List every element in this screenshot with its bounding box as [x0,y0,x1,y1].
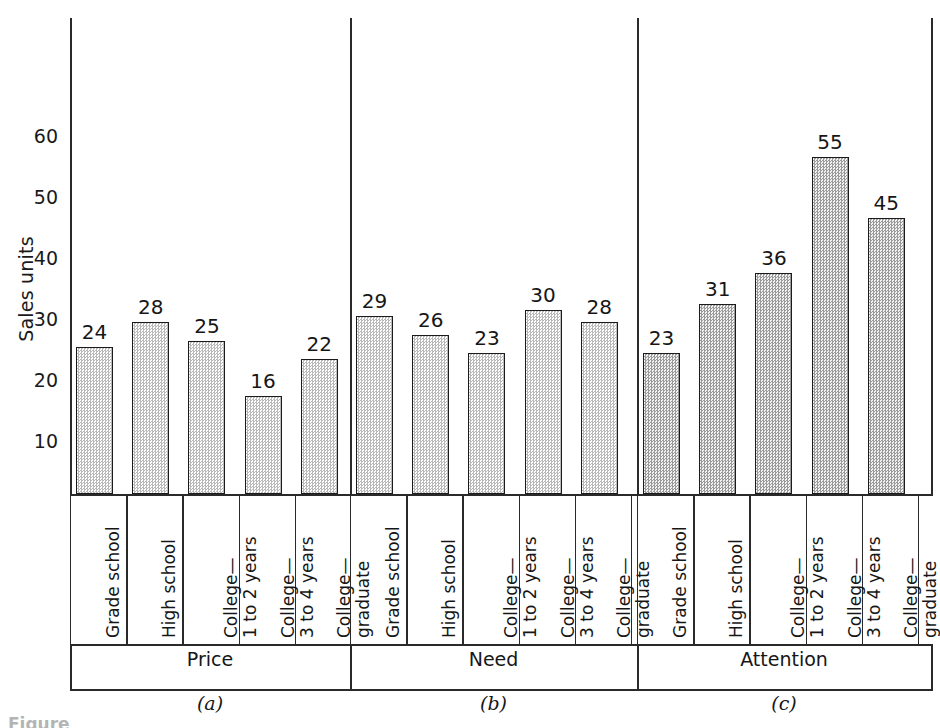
category-cell-divider [126,494,127,645]
category-label-line: graduate [354,558,373,638]
category-label-line: Grade school [103,526,123,638]
category-label: College—graduate [335,558,373,638]
category-cell-divider [406,494,407,645]
bar-value-label: 23 [634,328,689,348]
category-label-line: 3 to 4 years [578,536,597,638]
panel-band-divider [350,644,352,690]
bar-value-label: 31 [690,279,745,299]
bar [699,304,736,494]
figure-caption: Figure [8,714,70,728]
bar-value-label: 24 [67,322,122,342]
category-label-line: 3 to 4 years [865,536,884,638]
bar-value-label: 36 [746,248,801,268]
panel-band-edge [70,644,72,690]
bar-value-label: 16 [236,371,291,391]
category-label-line: College— [901,558,921,638]
category-label: College—1 to 2 years [789,536,827,638]
bar [356,316,393,494]
category-label-line: Grade school [670,526,690,638]
panel-band-edge [931,644,933,690]
bar [245,396,282,494]
category-label: College—1 to 2 years [222,536,260,638]
category-label: College—3 to 4 years [559,536,597,638]
bar [581,322,618,494]
panel-tag-label: (b) [350,692,637,714]
category-label: College—3 to 4 years [846,536,884,638]
bar [132,322,169,494]
panel-tag-label: (c) [637,692,931,714]
category-label: High school [727,539,746,638]
panel-tag-label: (a) [70,692,350,714]
panel-name-label: Need [350,648,637,670]
bar [755,273,792,494]
bar-value-label: 29 [347,291,402,311]
category-label: Grade school [384,526,403,638]
bar [468,353,505,494]
category-label-line: High school [439,539,459,638]
category-label: College—graduate [902,558,940,638]
category-label-line: Grade school [383,526,403,638]
bar [301,359,338,494]
category-cell-divider [637,494,638,645]
panel-band-rule [70,689,933,691]
category-cell-divider [693,494,694,645]
bar-value-label: 26 [403,310,458,330]
category-label-line: College— [614,558,634,638]
bar-value-label: 28 [572,297,627,317]
category-label-line: 1 to 2 years [808,536,827,638]
bar-value-label: 55 [803,132,858,152]
category-label-line: College— [501,558,521,638]
bar [188,341,225,494]
bar-value-label: 45 [859,193,914,213]
category-label-line: High school [726,539,746,638]
category-label: Grade school [671,526,690,638]
bar-value-label: 30 [516,285,571,305]
bar-value-label: 22 [292,334,347,354]
bar [868,218,905,494]
x-axis-baseline [70,494,933,496]
panel-name-label: Price [70,648,350,670]
category-label: High school [440,539,459,638]
category-label-line: College— [788,558,808,638]
category-label-line: graduate [921,558,940,638]
category-cell-divider [462,494,463,645]
category-label-line: College— [221,558,241,638]
category-label-line: High school [159,539,179,638]
category-label: College—graduate [615,558,653,638]
category-cell-divider [350,494,351,645]
category-band-rule [70,644,933,646]
category-cell-divider [70,494,71,645]
category-label: Grade school [104,526,123,638]
category-label-line: 3 to 4 years [298,536,317,638]
bar [76,347,113,494]
bar [812,157,849,494]
category-label-line: 1 to 2 years [521,536,540,638]
category-label-line: College— [845,558,865,638]
category-label-line: 1 to 2 years [241,536,260,638]
category-cell-divider [182,494,183,645]
category-label: College—1 to 2 years [502,536,540,638]
panel-band-divider [637,644,639,690]
bar-value-label: 23 [459,328,514,348]
bar [412,335,449,494]
bar [643,353,680,494]
category-label-line: College— [278,558,298,638]
panel-name-label: Attention [637,648,931,670]
category-label: High school [160,539,179,638]
bar [525,310,562,494]
bar-value-label: 25 [179,316,234,336]
category-cell-divider [749,494,750,645]
category-label-line: College— [558,558,578,638]
category-label: College—3 to 4 years [279,536,317,638]
bar-value-label: 28 [123,297,178,317]
bar-chart-figure: Sales units 60 50 40 30 20 10 2428251622… [0,0,940,728]
